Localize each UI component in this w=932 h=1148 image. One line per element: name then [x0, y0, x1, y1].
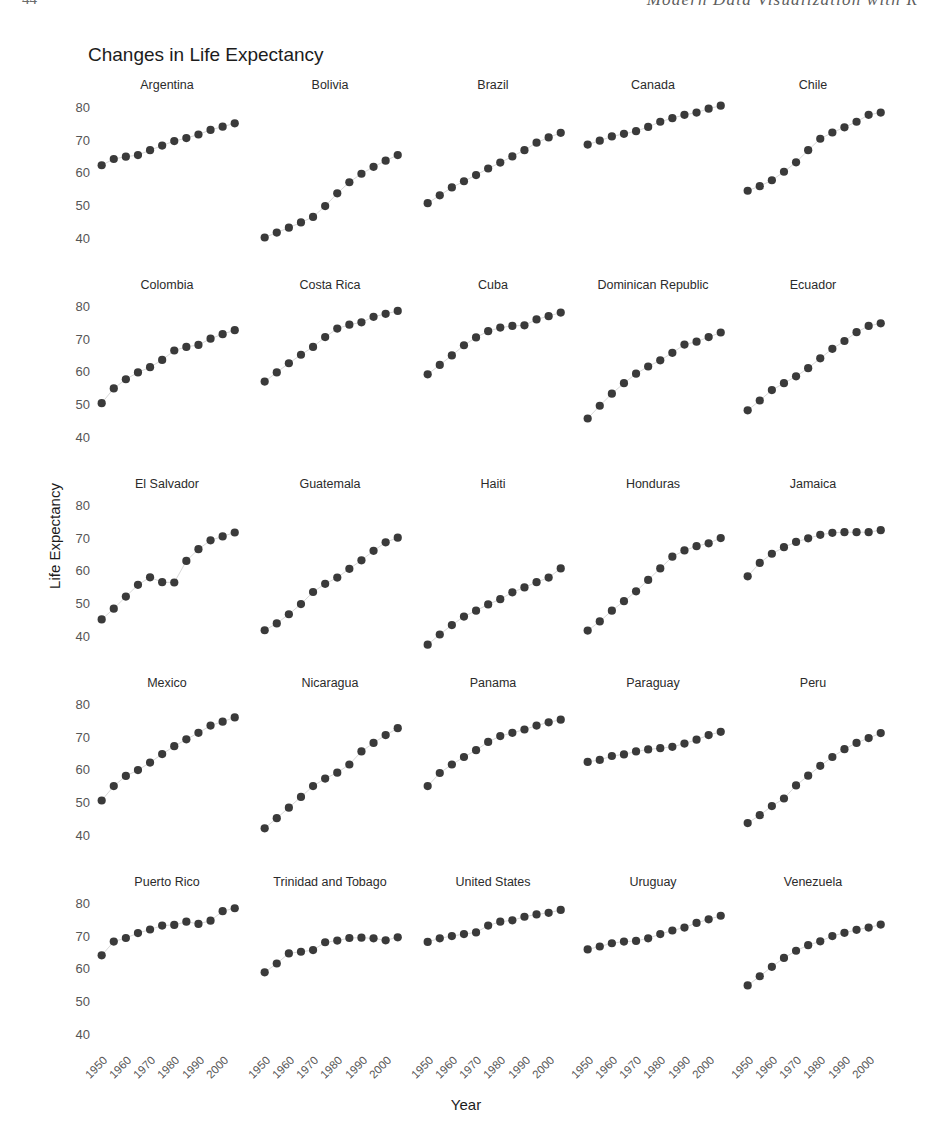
facet-panel-plot: [578, 904, 728, 1035]
facet-panel-title: Argentina: [92, 78, 242, 92]
facet-panel-plot: [578, 705, 728, 836]
y-axis-tick-label: 40: [56, 231, 90, 246]
facet-panel-plot: [578, 506, 728, 637]
facet-panel-plot: [92, 904, 242, 1035]
y-axis-tick-label: 40: [56, 1027, 90, 1042]
facet-panel-plot: [255, 705, 405, 836]
facet-panel-title: Haiti: [418, 477, 568, 491]
facet-panel-plot: [738, 108, 888, 239]
facet-panel-title: Panama: [418, 676, 568, 690]
facet-panel-plot: [255, 506, 405, 637]
facet-panel-title: Nicaragua: [255, 676, 405, 690]
facet-panel-plot: [418, 506, 568, 637]
y-axis-tick-label: 40: [56, 828, 90, 843]
y-axis-tick-label: 70: [56, 730, 90, 745]
y-axis-tick-label: 40: [56, 430, 90, 445]
facet-panel-title: El Salvador: [92, 477, 242, 491]
y-axis-tick-label: 70: [56, 133, 90, 148]
y-axis-tick-label: 70: [56, 531, 90, 546]
y-axis-tick-label: 80: [56, 299, 90, 314]
facet-panel-title: Canada: [578, 78, 728, 92]
facet-panel-plot: [418, 705, 568, 836]
y-axis-tick-label: 50: [56, 397, 90, 412]
facet-panel-title: Mexico: [92, 676, 242, 690]
y-axis-tick-label: 60: [56, 762, 90, 777]
chart-title: Changes in Life Expectancy: [88, 44, 324, 66]
facet-panel-title: Uruguay: [578, 875, 728, 889]
y-axis-tick-label: 50: [56, 596, 90, 611]
facet-panel-plot: [92, 307, 242, 438]
book-running-title: Modern Data Visualization with R: [647, 0, 918, 10]
y-axis-tick-label: 80: [56, 100, 90, 115]
facet-panel-plot: [92, 506, 242, 637]
y-axis-tick-label: 60: [56, 961, 90, 976]
facet-panel-title: Puerto Rico: [92, 875, 242, 889]
facet-panel-plot: [255, 307, 405, 438]
facet-panel-plot: [418, 307, 568, 438]
facet-panel-title: Colombia: [92, 278, 242, 292]
facet-panel-title: Brazil: [418, 78, 568, 92]
facet-panel-plot: [738, 705, 888, 836]
y-axis-tick-label: 60: [56, 364, 90, 379]
y-axis-tick-label: 80: [56, 697, 90, 712]
facet-panel-plot: [92, 705, 242, 836]
facet-panel-plot: [738, 904, 888, 1035]
facet-panel-title: Trinidad and Tobago: [255, 875, 405, 889]
facet-panel-title: United States: [418, 875, 568, 889]
facet-panel-title: Jamaica: [738, 477, 888, 491]
facet-panel-title: Honduras: [578, 477, 728, 491]
facet-panel-plot: [255, 904, 405, 1035]
facet-panel-plot: [738, 506, 888, 637]
page-running-header: 44 Modern Data Visualization with R: [0, 0, 932, 16]
facet-panel-title: Ecuador: [738, 278, 888, 292]
facet-panel-title: Venezuela: [738, 875, 888, 889]
y-axis-tick-label: 60: [56, 165, 90, 180]
y-axis-tick-label: 70: [56, 929, 90, 944]
facet-panel-plot: [418, 904, 568, 1035]
facet-panel-title: Cuba: [418, 278, 568, 292]
y-axis-tick-label: 40: [56, 629, 90, 644]
facet-panel-title: Dominican Republic: [578, 278, 728, 292]
y-axis-tick-label: 60: [56, 563, 90, 578]
page-number: 44: [22, 0, 37, 8]
facet-panel-title: Bolivia: [255, 78, 405, 92]
x-axis-title: Year: [0, 1096, 932, 1113]
facet-panel-plot: [418, 108, 568, 239]
facet-panel-plot: [578, 108, 728, 239]
facet-panel-title: Chile: [738, 78, 888, 92]
faceted-scatter-figure: Changes in Life Expectancy Life Expectan…: [0, 16, 932, 1148]
y-axis-tick-label: 70: [56, 332, 90, 347]
facet-panel-plot: [738, 307, 888, 438]
facet-panel-plot: [578, 307, 728, 438]
y-axis-tick-label: 80: [56, 498, 90, 513]
y-axis-tick-label: 50: [56, 994, 90, 1009]
y-axis-tick-label: 80: [56, 896, 90, 911]
facet-panel-plot: [92, 108, 242, 239]
facet-panel-title: Peru: [738, 676, 888, 690]
facet-panel-title: Paraguay: [578, 676, 728, 690]
facet-panel-title: Guatemala: [255, 477, 405, 491]
facet-panel-plot: [255, 108, 405, 239]
y-axis-tick-label: 50: [56, 198, 90, 213]
y-axis-tick-label: 50: [56, 795, 90, 810]
facet-panel-title: Costa Rica: [255, 278, 405, 292]
